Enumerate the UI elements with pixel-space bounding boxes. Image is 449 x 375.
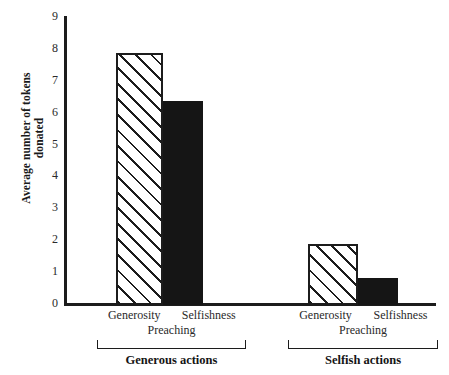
y-tick-label: 3 [34,201,58,213]
y-tick-label: 1 [34,265,58,277]
bar-tick-label: Selfishness [363,308,438,322]
bar-tick-label: Selfishness [172,308,247,322]
y-tick-label: 5 [34,138,58,150]
bar-label-row: GenerositySelfishness [97,308,246,323]
group-annotation: GenerositySelfishnessPreachingSelfish ac… [288,308,438,323]
plot-area [67,16,436,305]
group-bracket [97,340,246,349]
bar-chart: Average number of tokens donated 9876543… [0,0,449,375]
y-tick-label: 0 [34,297,58,309]
group-title: Generous actions [97,353,246,368]
sub-axis-label: Preaching [288,323,438,337]
y-tick-label: 2 [34,233,58,245]
bar-tick-label: Generosity [288,308,363,322]
y-tick-label: 9 [34,10,58,22]
group-title: Selfish actions [288,353,438,368]
bar-selfishness-generous [163,101,203,305]
bar-label-row: GenerositySelfishness [288,308,438,323]
group-bracket [288,340,438,349]
y-tick-label: 6 [34,106,58,118]
sub-axis-label: Preaching [97,323,246,337]
bar-selfishness-selfish [358,278,398,305]
bar-tick-label: Generosity [97,308,172,322]
bar-generosity-selfish [308,244,358,305]
bar-generosity-generous [116,53,163,305]
y-tick-label: 8 [34,42,58,54]
group-annotation: GenerositySelfishnessPreachingGenerous a… [97,308,246,323]
y-tick-label: 4 [34,169,58,181]
y-tick-label: 7 [34,74,58,86]
